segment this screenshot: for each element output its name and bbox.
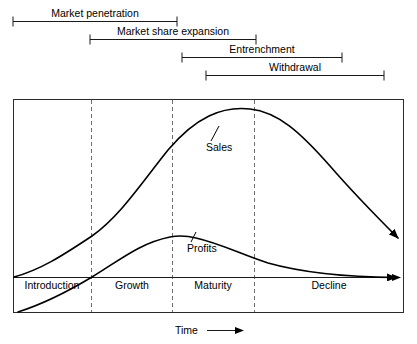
time-axis-label: Time: [175, 324, 198, 336]
stage-label-growth: Growth: [115, 279, 149, 291]
phase-label-market-penetration: Market penetration: [51, 7, 139, 19]
phase-label-entrenchment: Entrenchment: [229, 43, 294, 55]
sales-leader-line: [211, 126, 219, 141]
stage-label-introduction: Introduction: [25, 279, 80, 291]
profits-label: Profits: [187, 242, 217, 254]
product-life-cycle-figure: Market penetration Market share expansio…: [0, 0, 417, 344]
sales-label: Sales: [206, 141, 232, 153]
stage-label-decline: Decline: [311, 279, 346, 291]
figure-canvas: Market penetration Market share expansio…: [0, 0, 417, 344]
phase-label-market-share-expansion: Market share expansion: [117, 25, 229, 37]
stage-label-maturity: Maturity: [194, 279, 232, 291]
phase-label-withdrawal: Withdrawal: [269, 61, 321, 73]
